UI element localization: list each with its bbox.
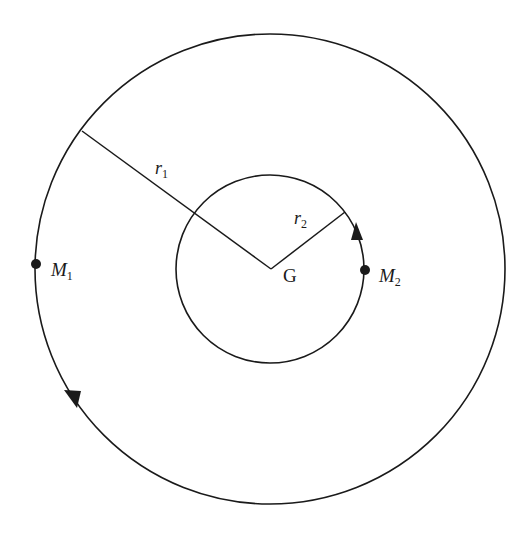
r2-label: r2 bbox=[294, 208, 307, 231]
r1-radius-line bbox=[82, 131, 271, 269]
orbit-diagram: r1 r2 G M1 M2 bbox=[0, 0, 529, 537]
mass-m2-dot bbox=[360, 265, 370, 275]
r1-label: r1 bbox=[155, 158, 168, 181]
r2-radius-line bbox=[271, 212, 345, 269]
mass-m2-label: M2 bbox=[378, 265, 401, 289]
mass-m1-dot bbox=[31, 259, 41, 269]
mass-m1-label: M1 bbox=[50, 259, 73, 283]
center-of-mass-label: G bbox=[283, 265, 297, 286]
